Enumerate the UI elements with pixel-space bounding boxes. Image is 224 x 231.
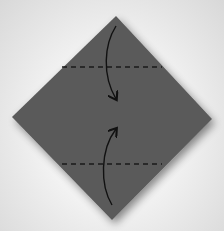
diagram-canvas bbox=[0, 0, 224, 231]
origami-diagram bbox=[0, 0, 224, 231]
paper-square bbox=[12, 16, 212, 220]
